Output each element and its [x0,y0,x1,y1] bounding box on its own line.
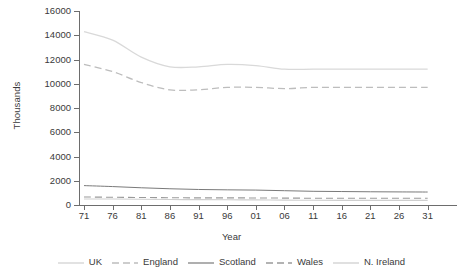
y-tick-mark [74,157,80,158]
y-tick-label: 12000 [11,55,71,65]
x-tick-label: 26 [384,211,414,221]
legend-label-wales: Wales [297,256,323,267]
x-tick-label: 96 [212,211,242,221]
x-tick-label: 71 [69,211,99,221]
legend-item-england[interactable]: England [112,256,178,267]
series-line-scotland [84,186,428,192]
series-line-uk [84,32,428,70]
x-tick-label: 91 [184,211,214,221]
legend-label-uk: UK [89,256,102,267]
y-tick-mark [74,11,80,12]
y-tick-mark [74,181,80,182]
series-line-england [84,64,428,90]
x-axis-line [79,205,457,206]
y-tick-mark [74,60,80,61]
y-tick-mark [74,84,80,85]
series-line-wales [84,197,428,198]
y-tick-mark [74,132,80,133]
y-tick-label: 16000 [11,6,71,16]
legend-swatch-scotland [188,258,214,266]
legend-label-england: England [143,256,178,267]
y-tick-label: 2000 [11,176,71,186]
x-tick-label: 16 [327,211,357,221]
x-tick-label: 86 [155,211,185,221]
y-tick-mark [74,108,80,109]
y-tick-label: 0 [11,200,71,210]
legend-label-n-ireland: N. Ireland [364,256,405,267]
series-line-n-ireland [84,199,428,200]
y-tick-label: 8000 [11,103,71,113]
legend-swatch-n-ireland [333,258,359,266]
legend-item-n-ireland[interactable]: N. Ireland [333,256,405,267]
line-chart: Thousands 020004000600080001000012000140… [0,0,463,279]
y-tick-label: 10000 [11,79,71,89]
legend-swatch-uk [58,258,84,266]
legend-swatch-england [112,258,138,266]
x-tick-label: 11 [298,211,328,221]
x-tick-label: 81 [126,211,156,221]
legend-item-wales[interactable]: Wales [266,256,323,267]
y-tick-mark [74,35,80,36]
x-tick-label: 76 [98,211,128,221]
x-tick-label: 21 [355,211,385,221]
legend-swatch-wales [266,258,292,266]
legend-item-uk[interactable]: UK [58,256,102,267]
x-tick-label: 31 [413,211,443,221]
y-tick-mark [74,205,80,206]
x-tick-label: 01 [241,211,271,221]
legend-item-scotland[interactable]: Scotland [188,256,256,267]
y-tick-label: 4000 [11,152,71,162]
y-tick-label: 6000 [11,127,71,137]
x-axis-title: Year [0,231,463,242]
legend-label-scotland: Scotland [219,256,256,267]
y-tick-label: 14000 [11,30,71,40]
x-tick-label: 06 [269,211,299,221]
chart-legend: UKEnglandScotlandWalesN. Ireland [0,256,463,267]
